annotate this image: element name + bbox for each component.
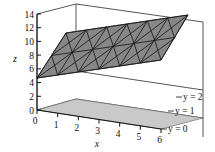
x-tick-label-1: 1	[54, 120, 59, 130]
z-tick-label-10: 10	[25, 37, 35, 47]
z-tick-label-14: 14	[25, 10, 35, 20]
x-tick-label-5: 5	[136, 132, 141, 142]
x-tick-label-3: 3	[95, 126, 100, 136]
x-tick-label-6: 6	[157, 135, 162, 145]
surface-mesh	[37, 15, 188, 78]
z-tick-label-8: 8	[29, 51, 34, 61]
z-axis-title: z	[12, 53, 17, 64]
y-label-2: y = 2	[183, 92, 203, 102]
z-tick-label-6: 6	[29, 64, 34, 74]
z-tick-label-12: 12	[25, 23, 35, 33]
x-tick-label-4: 4	[116, 129, 121, 139]
y-label-1: y = 1	[175, 106, 195, 116]
y-label-0: y = 0	[168, 124, 188, 134]
surface-plot-figure: 14 12 10 8 6 4 2 0 z 0 1 2 3 4 5 6	[0, 0, 215, 152]
plot-canvas: 14 12 10 8 6 4 2 0 z 0 1 2 3 4 5 6	[0, 0, 215, 152]
z-axis: 14 12 10 8 6 4 2 0 z	[12, 10, 41, 116]
z-tick-label-4: 4	[29, 78, 34, 88]
z-tick-label-0: 0	[29, 106, 34, 116]
x-tick-label-2: 2	[74, 123, 79, 133]
frame-edge-back-lower	[76, 71, 203, 90]
x-axis-title: x	[94, 138, 100, 149]
frame-edge-back-top-left	[37, 4, 76, 14]
x-tick-label-0: 0	[33, 116, 38, 126]
z-tick-label-2: 2	[29, 92, 34, 102]
